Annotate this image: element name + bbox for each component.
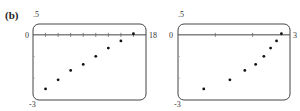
- data-point: [119, 40, 122, 43]
- plot-frame: [178, 24, 290, 100]
- data-point: [269, 47, 272, 50]
- data-point: [202, 88, 205, 91]
- data-point: [82, 63, 85, 66]
- data-point: [107, 47, 110, 50]
- data-point: [132, 32, 135, 35]
- data-point: [69, 69, 72, 72]
- data-point: [262, 55, 265, 58]
- plot-right: [178, 24, 290, 100]
- data-point: [94, 55, 97, 58]
- data-point: [280, 32, 283, 35]
- data-point: [243, 69, 246, 72]
- plot-left: [33, 24, 146, 100]
- data-point: [275, 40, 278, 43]
- data-point: [57, 78, 60, 81]
- plot-frame: [33, 24, 146, 100]
- data-point: [228, 78, 231, 81]
- data-point: [254, 63, 257, 66]
- data-point: [44, 88, 47, 91]
- scatter-plots: [0, 0, 300, 111]
